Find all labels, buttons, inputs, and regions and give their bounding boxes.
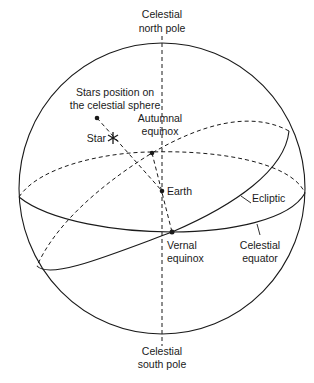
earth-label: Earth: [167, 185, 192, 197]
celestial-equator-label-1: Celestial: [240, 239, 280, 251]
autumnal-equinox-label-2: equinox: [142, 125, 180, 137]
ecliptic-leader: [241, 196, 251, 203]
north-pole-label-1: Celestial: [142, 8, 182, 20]
vernal-equinox-dot: [170, 230, 175, 235]
autumnal-equinox-dot: [150, 151, 155, 156]
autumnal-equinox-label-1: Autumnal: [138, 112, 182, 124]
star-position-dot: [95, 116, 100, 121]
star-icon: [108, 132, 118, 144]
earth-dot: [160, 189, 165, 194]
vernal-equinox-label-1: Vernal: [167, 239, 197, 251]
south-pole-label-2: south pole: [138, 358, 187, 370]
equator-leader: [257, 224, 260, 235]
ecliptic-label: Ecliptic: [252, 192, 285, 204]
celestial-sphere-diagram: Celestial north pole Stars position on t…: [0, 0, 314, 383]
north-pole-label-2: north pole: [139, 22, 186, 34]
star-label: Star: [87, 132, 107, 144]
south-pole-label-1: Celestial: [142, 345, 182, 357]
celestial-equator-label-2: equator: [242, 252, 278, 264]
vernal-equinox-label-2: equinox: [167, 252, 205, 264]
star-position-label-1: Stars position on: [76, 86, 154, 98]
star-position-label-2: the celestial sphere: [70, 99, 161, 111]
